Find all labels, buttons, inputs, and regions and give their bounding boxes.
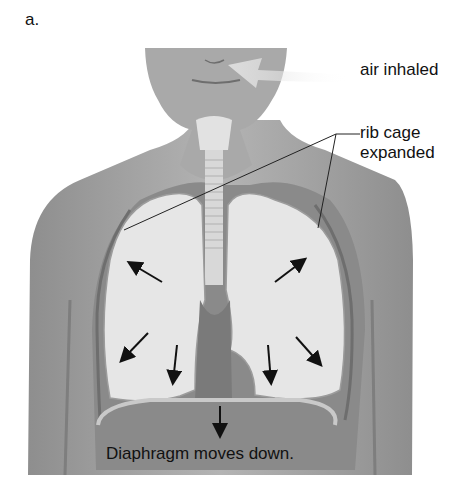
air-inhaled-label: air inhaled xyxy=(360,60,438,80)
diaphragm-label: Diaphragm moves down. xyxy=(106,444,294,464)
rib-cage-expanded-label: rib cage expanded xyxy=(360,123,435,163)
heart-space xyxy=(195,300,232,400)
rib-cage-label-line1: rib cage xyxy=(360,123,435,143)
rib-cage-label-line2: expanded xyxy=(360,143,435,163)
